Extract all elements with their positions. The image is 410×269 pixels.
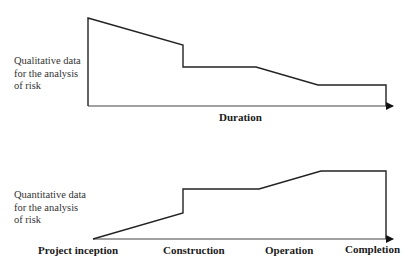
diagram-canvas [0,0,410,269]
qualitative-curve [88,18,386,106]
stage-label-construction: Construction [163,244,225,256]
qualitative-chart [88,18,393,106]
top-ylabel-line-1: Qualitative data [14,55,81,68]
top-ylabel-line-3: of risk [14,80,81,93]
top-x-axis-label: Duration [219,111,262,123]
bottom-ylabel-line-2: for the analysis [14,202,86,215]
quantitative-chart [93,171,393,239]
bottom-y-axis-label: Quantitative data for the analysis of ri… [14,189,86,227]
quantitative-curve [93,171,386,239]
stage-label-completion: Completion [345,243,400,255]
stage-label-project-inception: Project inception [38,244,118,256]
stage-label-operation: Operation [265,244,313,256]
bottom-ylabel-line-3: of risk [14,214,86,227]
bottom-ylabel-line-1: Quantitative data [14,189,86,202]
top-ylabel-line-2: for the analysis [14,68,81,81]
top-y-axis-label: Qualitative data for the analysis of ris… [14,55,81,93]
